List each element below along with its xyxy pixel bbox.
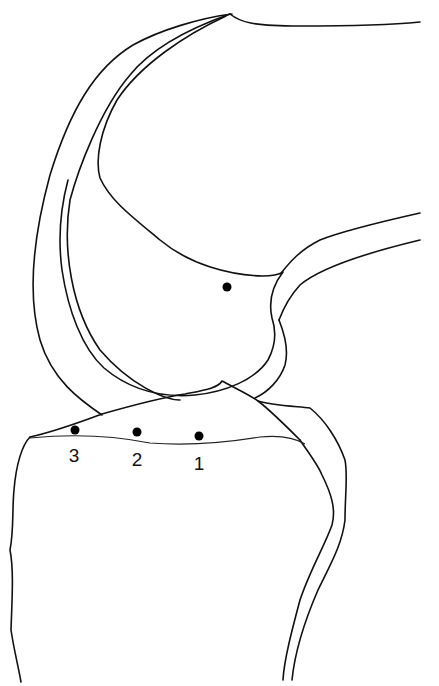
knee-line-drawing	[0, 0, 439, 686]
marker-label-2: 2	[132, 450, 143, 469]
tibial-articular-line	[30, 436, 305, 444]
tibial-marker-dot-3	[71, 426, 80, 435]
femur-posterior-edge-upper	[282, 213, 420, 272]
posterior-tibia-edge	[283, 440, 334, 680]
tibia-anterior-shaft	[10, 437, 30, 682]
patella-outer-contour	[33, 14, 232, 415]
tibial-marker-dot-1	[195, 432, 204, 441]
posterior-ligament	[255, 320, 287, 398]
femoral-marker-dot	[223, 283, 232, 292]
femur-anterior-edge	[230, 14, 420, 26]
knee-diagram: 3 2 1	[0, 0, 439, 686]
patellar-tendon-line	[67, 14, 230, 400]
marker-label-3: 3	[69, 446, 80, 465]
tibial-marker-dot-2	[133, 428, 142, 437]
marker-label-1: 1	[194, 454, 205, 473]
